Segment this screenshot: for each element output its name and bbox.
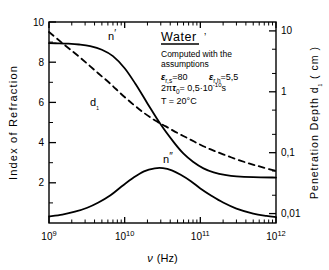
chart-canvas: 109101010111012 246810 1010,10,01 n′n″d₁… — [0, 0, 329, 270]
annotation-temperature: T = 20°C — [161, 96, 197, 106]
svg-text:6: 6 — [38, 97, 44, 108]
x-axis-label: ν(Hz) — [147, 252, 177, 264]
svg-text:8: 8 — [38, 57, 44, 68]
svg-text:0,1: 0,1 — [281, 147, 295, 158]
svg-text:4: 4 — [38, 137, 44, 148]
y-axis-left-label: Index of Refraction — [7, 65, 19, 180]
y-axis-left-title: Index of Refraction — [7, 65, 19, 180]
svg-text:10: 10 — [281, 25, 293, 36]
svg-text:2: 2 — [38, 177, 44, 188]
annotation-line-2: assumptions — [161, 59, 209, 69]
svg-text:1: 1 — [281, 86, 287, 97]
svg-text:10: 10 — [33, 17, 45, 28]
svg-text:0,01: 0,01 — [281, 208, 301, 219]
x-axis-title: ν(Hz) — [147, 252, 177, 264]
figure-container: 109101010111012 246810 1010,10,01 n′n″d₁… — [0, 0, 329, 270]
annotation-line-1: Computed with the — [161, 49, 232, 59]
